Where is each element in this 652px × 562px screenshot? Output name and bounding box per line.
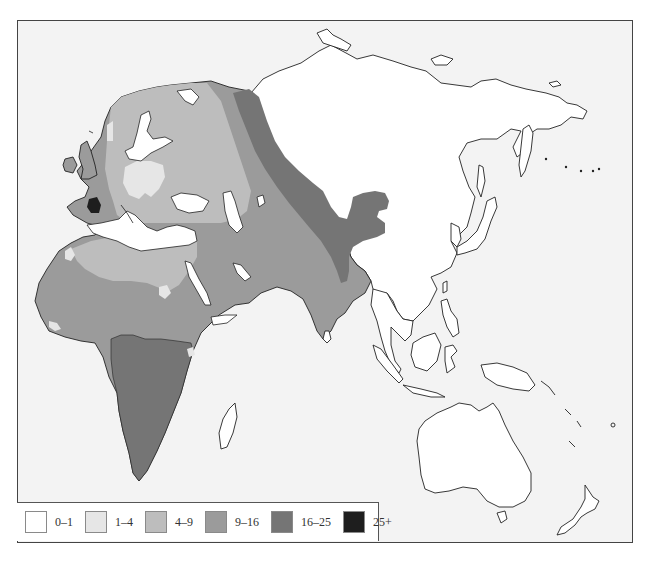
philippines bbox=[441, 299, 459, 337]
legend-label: 0–1 bbox=[55, 515, 73, 530]
tasmania bbox=[497, 511, 507, 523]
legend-label: 9–16 bbox=[235, 515, 259, 530]
legend-item-1-4: 1–4 bbox=[85, 511, 133, 533]
sri-lanka bbox=[323, 331, 331, 343]
madagascar bbox=[219, 403, 237, 449]
legend-label: 1–4 bbox=[115, 515, 133, 530]
legend-item-16-25: 16–25 bbox=[271, 511, 331, 533]
iceland-hint bbox=[89, 131, 93, 133]
legend-item-4-9: 4–9 bbox=[145, 511, 193, 533]
legend-label: 25+ bbox=[373, 515, 392, 530]
gulf-of-aden bbox=[211, 315, 237, 325]
wrangel-island bbox=[549, 81, 561, 87]
severnaya-zemlya bbox=[431, 55, 453, 65]
legend-label: 16–25 bbox=[301, 515, 331, 530]
new-zealand bbox=[557, 485, 599, 535]
legend-item-9-16: 9–16 bbox=[205, 511, 259, 533]
new-guinea bbox=[481, 363, 535, 391]
legend-swatch bbox=[271, 511, 293, 533]
legend-label: 4–9 bbox=[175, 515, 193, 530]
legend-item-0-1: 0–1 bbox=[25, 511, 73, 533]
legend-swatch bbox=[85, 511, 107, 533]
borneo bbox=[411, 333, 441, 371]
ireland bbox=[63, 157, 77, 173]
sulawesi bbox=[445, 345, 457, 373]
map-frame bbox=[17, 20, 633, 543]
legend-swatch bbox=[145, 511, 167, 533]
zone-16-25-africa bbox=[111, 335, 193, 481]
legend-swatch bbox=[25, 511, 47, 533]
map-legend: 0–1 1–4 4–9 9–16 16–25 25+ bbox=[17, 502, 379, 541]
legend-swatch bbox=[205, 511, 227, 533]
java bbox=[403, 385, 445, 397]
legend-swatch bbox=[343, 511, 365, 533]
pacific-islands bbox=[541, 381, 615, 447]
map-canvas bbox=[18, 21, 632, 542]
taiwan bbox=[443, 281, 447, 293]
kuril-islands bbox=[545, 158, 600, 172]
legend-item-25-plus: 25+ bbox=[343, 511, 392, 533]
sakhalin bbox=[477, 165, 485, 197]
australia bbox=[417, 403, 531, 507]
